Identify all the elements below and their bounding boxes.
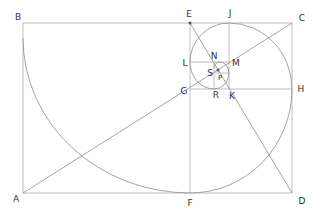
label-j: J (229, 9, 232, 18)
label-d: D (299, 197, 306, 206)
label-h: H (298, 85, 305, 94)
label-l: L (182, 59, 187, 68)
label-a: A (13, 195, 19, 204)
golden-spiral-diagram (0, 0, 320, 216)
label-k: K (229, 92, 235, 101)
label-c: C (299, 14, 305, 23)
point-e-dot (189, 22, 192, 25)
label-g: G (181, 87, 188, 96)
label-p: P (218, 75, 222, 82)
label-f: F (187, 199, 192, 208)
diagonal-ac (23, 23, 292, 193)
label-e: E (186, 10, 192, 19)
spiral-center-dot (217, 69, 220, 72)
label-b: B (15, 13, 21, 22)
label-r: R (213, 91, 219, 100)
label-s: S (207, 69, 213, 78)
label-n: N (211, 52, 218, 61)
diagonal-ed (190, 23, 292, 193)
label-m: M (232, 59, 240, 68)
